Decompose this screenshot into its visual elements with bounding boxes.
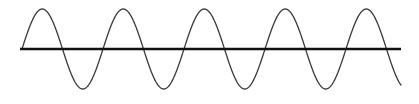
figure-canvas [0,0,419,104]
sine-wave-figure [0,0,419,104]
